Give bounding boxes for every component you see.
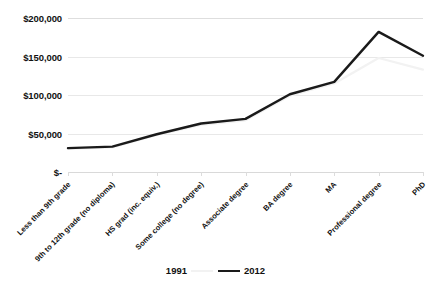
legend-color-swatch [218,270,240,272]
x-tick-label: MA [324,180,339,195]
x-axis: Less than 9th grade9th to 12th grade (no… [0,0,431,290]
legend-item-1991: 1991 [166,266,213,276]
legend-label: 2012 [244,266,265,276]
legend-item-2012: 2012 [218,266,265,276]
x-tick-label: Associate degree [199,180,250,231]
line-chart: $200,000 $150,000 $100,000 $50,000 $- Le… [0,0,431,290]
chart-legend: 1991 2012 [0,266,431,276]
legend-color-swatch [191,270,213,272]
x-tick-label: PhD [410,180,427,197]
x-tick-label: 9th to 12th grade (no diploma) [33,180,116,263]
legend-label: 1991 [166,266,187,276]
x-tick-label: BA degree [261,180,294,213]
